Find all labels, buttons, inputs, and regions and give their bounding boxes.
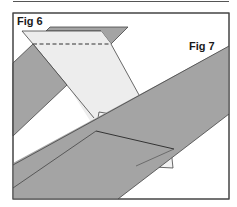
fig7-label: Fig 7	[189, 41, 215, 52]
fig6-label: Fig 6	[17, 16, 43, 27]
diagram-canvas	[0, 0, 237, 207]
illustration: Fig 6 Fig 7	[0, 0, 237, 207]
